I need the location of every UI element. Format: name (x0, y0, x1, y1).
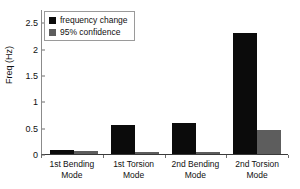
x-axis-category-label: 2nd TorsionMode (226, 159, 288, 181)
bar (233, 33, 257, 154)
bar-group (227, 10, 288, 154)
x-axis-category-line2: Mode (226, 170, 288, 181)
x-axis-category-line2: Mode (103, 170, 165, 181)
legend-item: frequency change (49, 15, 128, 25)
y-axis-tick-mark (42, 75, 45, 76)
x-axis-category-line2: Mode (165, 170, 227, 181)
x-axis-tick-mark (165, 155, 166, 158)
bar (172, 123, 196, 154)
y-axis-tick-mark (42, 128, 45, 129)
x-axis-category-label: 1st TorsionMode (103, 159, 165, 181)
legend-item: 95% confidence (49, 27, 128, 37)
bar (50, 150, 74, 154)
x-axis-category-line1: 2nd Bending (165, 159, 227, 170)
bar (111, 125, 135, 154)
y-axis-tick-mark (42, 102, 45, 103)
bar-group (166, 10, 227, 154)
bar (74, 151, 98, 154)
x-axis-tick-mark (103, 155, 104, 158)
legend-item-label: frequency change (60, 15, 128, 25)
chart-legend: frequency change95% confidence (44, 11, 135, 41)
x-axis-labels: 1st BendingMode1st TorsionMode2nd Bendin… (41, 159, 288, 181)
x-axis-tick-mark (41, 155, 42, 158)
black-square-icon (49, 17, 56, 24)
x-axis-category-line1: 2nd Torsion (226, 159, 288, 170)
gray-square-icon (49, 29, 56, 36)
x-axis-category-label: 2nd BendingMode (165, 159, 227, 181)
y-axis-tick-label: 2.5 (25, 19, 42, 28)
bar (257, 130, 281, 154)
x-axis-tick-mark (288, 155, 289, 158)
y-axis-title: Freq (Hz) (4, 30, 14, 100)
bar (196, 152, 220, 154)
x-axis-tick-mark (226, 155, 227, 158)
y-axis-tick-label: 1.5 (25, 71, 42, 80)
y-axis-tick-mark (42, 49, 45, 50)
y-axis-tick-label: 1 (33, 98, 42, 107)
y-axis-tick-label: 2 (33, 45, 42, 54)
legend-item-label: 95% confidence (60, 27, 121, 37)
x-axis-category-line1: 1st Torsion (103, 159, 165, 170)
y-axis-tick-label: 0.5 (25, 124, 42, 133)
bar (135, 152, 159, 154)
x-axis-category-label: 1st BendingMode (41, 159, 103, 181)
bar-chart: Freq (Hz) 00.511.522.5 1st BendingMode1s… (0, 0, 300, 189)
x-axis-category-line2: Mode (41, 170, 103, 181)
x-axis-category-line1: 1st Bending (41, 159, 103, 170)
